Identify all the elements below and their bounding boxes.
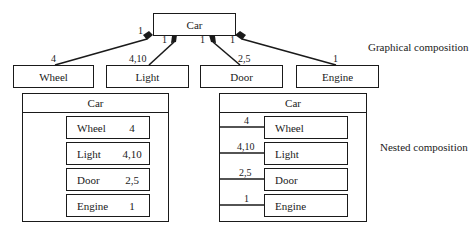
engine-association-line xyxy=(242,39,336,65)
class-name: Car xyxy=(285,97,301,109)
part-multiplicity-light: 4,10 xyxy=(129,54,147,64)
whole-multiplicity-wheel: 1 xyxy=(138,26,143,36)
nested-multiplicity-door: 2,5 xyxy=(239,168,252,178)
part-multiplicity: 4,10 xyxy=(115,148,149,160)
part-name: Light xyxy=(275,148,299,160)
composition-diamond-icon xyxy=(209,35,216,43)
nested-composition-caption: Nested composition xyxy=(380,141,468,153)
part-multiplicity: 1 xyxy=(115,200,149,212)
whole-multiplicity-door: 1 xyxy=(200,35,205,45)
nested-left-part-wheel: Wheel 4 xyxy=(66,116,150,139)
part-name: Engine xyxy=(77,200,108,212)
light-association-line xyxy=(149,42,174,65)
part-name: Door xyxy=(275,174,298,186)
nested-left-part-light: Light 4,10 xyxy=(66,142,150,165)
graphical-part-door: Door xyxy=(200,65,283,88)
part-name: Light xyxy=(77,148,101,160)
door-association-line xyxy=(213,42,240,65)
nested-multiplicity-light: 4,10 xyxy=(237,142,255,152)
part-multiplicity-wheel: 4 xyxy=(51,54,56,64)
composition-diamond-icon xyxy=(235,31,246,40)
class-name: Engine xyxy=(322,71,353,83)
class-name: Door xyxy=(230,71,253,83)
class-name: Car xyxy=(187,19,203,31)
part-name: Door xyxy=(77,174,100,186)
class-name: Wheel xyxy=(39,71,68,83)
graphical-whole-car: Car xyxy=(153,13,236,36)
nested-right-part-wheel: Wheel xyxy=(264,116,348,139)
nested-right-part-engine: Engine xyxy=(264,194,348,217)
nested-multiplicity-engine: 1 xyxy=(244,194,249,204)
part-multiplicity-door: 2,5 xyxy=(238,54,251,64)
class-name: Car xyxy=(88,97,104,109)
nested-left-part-engine: Engine 1 xyxy=(66,194,150,217)
class-header: Car xyxy=(23,94,168,113)
part-multiplicity: 2,5 xyxy=(115,174,149,186)
graphical-composition-caption: Graphical composition xyxy=(368,41,469,53)
composition-diamond-icon xyxy=(171,35,177,43)
composition-diamond-icon xyxy=(143,31,153,40)
part-multiplicity: 4 xyxy=(115,122,149,134)
nested-right-part-light: Light xyxy=(264,142,348,165)
graphical-part-engine: Engine xyxy=(296,65,379,88)
nested-left-part-door: Door 2,5 xyxy=(66,168,150,191)
part-multiplicity-engine: 1 xyxy=(333,54,338,64)
graphical-part-wheel: Wheel xyxy=(13,65,94,88)
nested-multiplicity-wheel: 4 xyxy=(244,116,249,126)
part-name: Wheel xyxy=(275,122,304,134)
part-name: Wheel xyxy=(77,122,106,134)
whole-multiplicity-light: 1 xyxy=(162,35,167,45)
class-name: Light xyxy=(136,71,160,83)
nested-right-part-door: Door xyxy=(264,168,348,191)
whole-multiplicity-engine: 1 xyxy=(230,35,235,45)
part-name: Engine xyxy=(275,200,306,212)
class-header: Car xyxy=(220,94,366,113)
graphical-part-light: Light xyxy=(106,65,189,88)
